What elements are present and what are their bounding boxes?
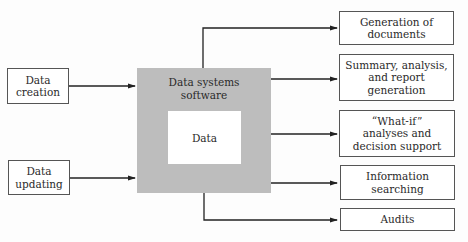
output-summary-analysis-report: Summary, analysis, and report generation <box>339 54 454 101</box>
data-box: Data <box>168 111 241 164</box>
output-audits: Audits <box>340 208 455 231</box>
software-label: Data systems software <box>137 76 271 101</box>
input-data-updating: Data updating <box>8 160 70 195</box>
arrow-to-generation <box>203 28 337 68</box>
data-label: Data <box>192 132 217 144</box>
arrow-to-audits <box>204 193 337 220</box>
diagram-canvas: Data systems software Data Data creation… <box>0 0 468 242</box>
output-generation-of-documents: Generation of documents <box>339 11 454 45</box>
output-information-searching: Information searching <box>340 165 455 200</box>
input-data-creation: Data creation <box>7 68 69 104</box>
output-what-if-analyses: “What-if” analyses and decision support <box>339 110 455 157</box>
